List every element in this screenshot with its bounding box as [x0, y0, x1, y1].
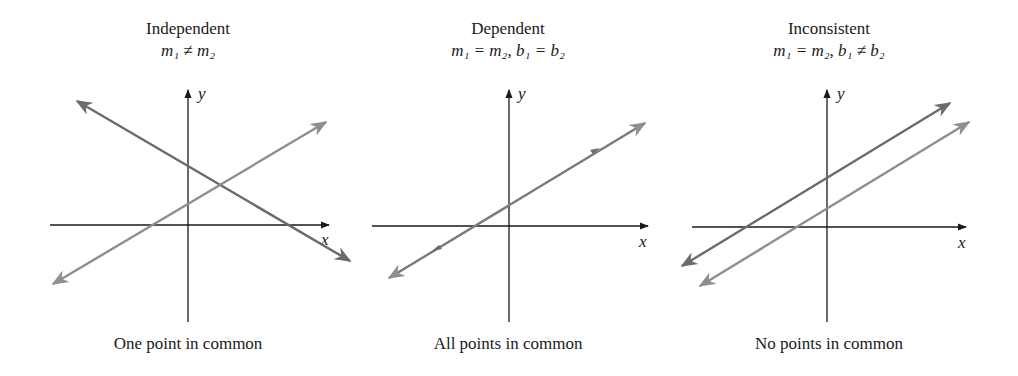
panel-2-y-label: y — [516, 84, 526, 103]
panel-1-y-label: y — [196, 84, 206, 103]
panel-2-x-label: x — [638, 232, 647, 251]
panel-3-graph: x y — [682, 84, 969, 322]
panel-3-line-upper — [682, 103, 950, 266]
panel-1-line-decreasing — [77, 101, 350, 261]
panel-3-line-lower — [700, 122, 969, 286]
panel-2-graph: x y — [372, 84, 648, 322]
panel-2-line-coincident — [389, 123, 645, 278]
panel-3-x-label: x — [957, 233, 966, 252]
panel-1-graph: x y — [50, 84, 350, 322]
panel-1-line-increasing — [53, 122, 326, 284]
panel-3-y-label: y — [835, 84, 845, 103]
graphs-canvas: x y x y x y — [0, 0, 1018, 376]
